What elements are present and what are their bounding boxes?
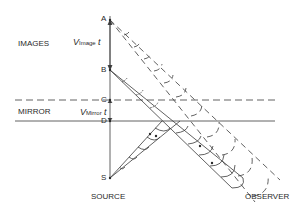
point-a-label: A <box>101 15 106 23</box>
mirror-image-diagram <box>0 0 306 210</box>
mirror-label: MIRROR <box>18 108 50 116</box>
v-image-t: t <box>98 37 101 47</box>
v-image-label: VImage t <box>73 38 100 47</box>
source-ray-wedge <box>110 121 180 178</box>
point-s-label: S <box>101 174 106 182</box>
v-image-subscript: Image <box>79 40 96 46</box>
v-mirror-t: t <box>104 107 107 117</box>
point-b-label: B <box>101 66 106 74</box>
image-a-ray-wedge <box>110 20 280 202</box>
v-mirror-subscript: Mirror <box>86 110 102 116</box>
v-mirror-label: VMirror t <box>80 108 106 117</box>
images-label: IMAGES <box>18 40 49 48</box>
v-image-arrow <box>108 20 112 70</box>
observer-label: OBSERVER <box>245 193 289 201</box>
image-b-ray-wedge <box>110 70 244 188</box>
point-d-label: D <box>101 117 107 125</box>
source-label: SOURCE <box>91 193 125 201</box>
point-c-label: C <box>101 96 107 104</box>
